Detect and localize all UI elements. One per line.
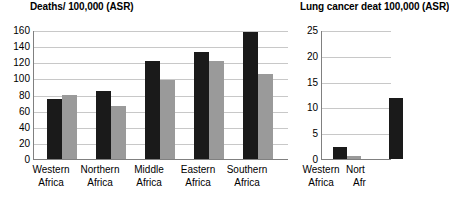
ytick-label-60: 60: [19, 107, 30, 117]
bar-group-southern-africa: [238, 31, 278, 159]
plot-area-deaths: 160 140 120 100 80 60 40 20 0: [33, 31, 288, 160]
bar-western-africa-dark[interactable]: [47, 99, 62, 159]
xlabel-lung-western-africa-line-2: Africa: [296, 177, 346, 190]
bar-northern-africa-light[interactable]: [111, 106, 126, 159]
xlabel-lung-western-africa: Western Africa: [296, 164, 346, 189]
xlabel-lung-northern-africa: Nort Afr: [346, 164, 396, 189]
ytick-label-160: 160: [13, 26, 30, 36]
xlabel-lung-northern-africa-line-2: Afr: [346, 177, 396, 190]
chart-title-lung-cancer: Lung cancer deat 100,000 (ASR): [300, 1, 449, 14]
bar-group-western-africa: [42, 31, 82, 159]
xlabel-southern-africa-line-2: Africa: [217, 177, 277, 190]
ytick-label-120: 120: [13, 58, 30, 68]
ytick-label-140: 140: [13, 42, 30, 52]
bar-group-lung-western-africa: [328, 31, 366, 159]
ytick-label-lung-25: 25: [307, 26, 318, 36]
bar-group-middle-africa: [140, 31, 180, 159]
bar-eastern-africa-light[interactable]: [209, 61, 224, 159]
ytick-label-lung-20: 20: [307, 52, 318, 62]
plot-area-lung-cancer: 25 20 15 10 5 0: [321, 31, 391, 160]
bar-middle-africa-dark[interactable]: [145, 61, 160, 159]
ytick-label-100: 100: [13, 74, 30, 84]
chart-title-line-2: 100,000 (ASR): [68, 1, 133, 12]
bar-group-lung-northern-africa: [377, 31, 415, 159]
bar-middle-africa-light[interactable]: [160, 80, 175, 159]
bar-southern-africa-light[interactable]: [258, 74, 273, 159]
xlabel-lung-northern-africa-line-1: Nort: [346, 164, 396, 177]
bar-group-northern-africa: [91, 31, 131, 159]
bar-northern-africa-dark[interactable]: [96, 91, 111, 159]
bar-group-eastern-africa: [189, 31, 229, 159]
chart-panel-lung-cancer: Lung cancer deat 100,000 (ASR) 25 20 15 …: [296, 0, 388, 203]
chart-title-line-1: Deaths/: [30, 1, 65, 12]
bar-eastern-africa-dark[interactable]: [194, 52, 209, 159]
xlabel-lung-western-africa-line-1: Western: [296, 164, 346, 177]
chart-title-deaths: Deaths/ 100,000 (ASR): [30, 1, 134, 14]
ytick-label-lung-15: 15: [307, 78, 318, 88]
xlabel-southern-africa-line-1: Southern: [217, 164, 277, 177]
chart-title-lung-line-1: Lung cancer deat: [300, 1, 381, 12]
ytick-label-40: 40: [19, 123, 30, 133]
chart-title-lung-line-2: 100,000 (ASR): [384, 1, 449, 12]
ytick-label-lung-10: 10: [307, 103, 318, 113]
bar-western-africa-light[interactable]: [62, 95, 77, 160]
xlabel-southern-africa: Southern Africa: [217, 164, 277, 189]
bar-lung-western-africa-dark[interactable]: [333, 147, 347, 159]
ytick-label-80: 80: [19, 91, 30, 101]
ytick-label-lung-5: 5: [312, 129, 318, 139]
bar-lung-northern-africa-dark[interactable]: [389, 98, 403, 159]
bar-lung-western-africa-light[interactable]: [347, 156, 361, 159]
chart-panel-deaths: Deaths/ 100,000 (ASR) 160 140 120 100 80…: [0, 0, 292, 203]
ytick-label-20: 20: [19, 139, 30, 149]
bar-southern-africa-dark[interactable]: [243, 32, 258, 159]
